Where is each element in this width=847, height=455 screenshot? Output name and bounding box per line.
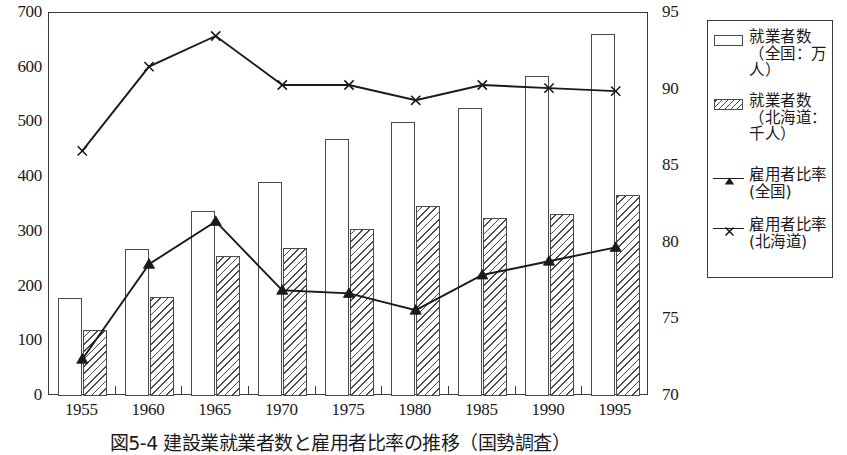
right-axis-tick-label: 75: [662, 309, 702, 326]
legend-item: 就業者数（北海道：千人）: [713, 93, 829, 143]
legend-item: 就業者数（全国：万人）: [713, 29, 829, 79]
right-axis-tick-label: 80: [662, 233, 702, 250]
left-axis-tick-label: 600: [0, 58, 42, 75]
hokkaido-employee-ratio-marker: [211, 31, 220, 40]
bar-national-workers: [325, 139, 349, 396]
bar-hokkaido-workers: [216, 256, 240, 396]
x-axis-tick-label: 1995: [580, 400, 650, 420]
legend-item: 雇用者比率(全国): [713, 167, 829, 200]
left-axis-tick-label: 100: [0, 331, 42, 348]
x-axis-tick-label: 1990: [513, 400, 583, 420]
figure-caption: 図5-4 建設業就業者数と雇用者比率の推移（国勢調査）: [0, 428, 680, 455]
x-axis-tick-mark: [448, 386, 449, 395]
bar-national-workers: [58, 298, 82, 396]
right-axis-tick-label: 70: [662, 386, 702, 403]
left-axis-tick-label: 500: [0, 112, 42, 129]
right-axis-tick-label: 90: [662, 80, 702, 97]
bar-national-workers: [258, 182, 282, 396]
hokkaido-employee-ratio-marker: [278, 80, 287, 89]
legend-item-label: 雇用者比率(全国): [749, 167, 829, 200]
bar-hokkaido-workers: [550, 214, 574, 396]
bar-national-workers: [391, 122, 415, 396]
x-axis-tick-label: 1975: [313, 400, 383, 420]
x-axis-tick-mark: [115, 386, 116, 395]
triangle-line-icon: [713, 170, 745, 187]
x-axis-tick-label: 1970: [246, 400, 316, 420]
bar-hokkaido-workers: [83, 330, 107, 396]
left-axis-tick-label: 400: [0, 167, 42, 184]
bar-national-workers: [525, 76, 549, 396]
bar-hokkaido-workers: [616, 195, 640, 396]
bar-national-workers: [591, 34, 615, 396]
bar-hokkaido-workers: [350, 229, 374, 396]
legend-item-label: 就業者数（北海道：千人）: [749, 93, 829, 143]
hokkaido-employee-ratio-marker: [411, 96, 420, 105]
hokkaido-employee-ratio-marker: [478, 80, 487, 89]
bar-national-workers: [458, 108, 482, 396]
hokkaido-employee-ratio-marker: [78, 146, 87, 155]
bar-national-workers: [191, 211, 215, 396]
bar-hokkaido-workers: [483, 218, 507, 396]
right-axis-tick-label: 85: [662, 156, 702, 173]
x-axis-tick-mark: [581, 386, 582, 395]
bar-hokkaido-workers: [416, 206, 440, 396]
left-axis-tick-label: 700: [0, 3, 42, 20]
left-axis-tick-label: 300: [0, 222, 42, 239]
x-axis-tick-label: 1980: [380, 400, 450, 420]
left-axis-tick-label: 0: [0, 386, 42, 403]
x-axis-tick-mark: [515, 386, 516, 395]
plot-area: [48, 12, 648, 395]
legend: 就業者数（全国：万人）就業者数（北海道：千人）雇用者比率(全国)雇用者比率 (北…: [707, 20, 833, 278]
bar-hokkaido-workers: [150, 297, 174, 396]
x-axis-tick-label: 1960: [113, 400, 183, 420]
cross-line-icon: [713, 220, 745, 237]
legend-item: 雇用者比率 (北海道): [713, 217, 829, 250]
x-axis-tick-label: 1985: [446, 400, 516, 420]
x-axis-tick-mark: [181, 386, 182, 395]
x-axis-tick-label: 1965: [180, 400, 250, 420]
x-axis-tick-mark: [248, 386, 249, 395]
hatched-bar-icon: [713, 96, 745, 113]
legend-item-label: 雇用者比率 (北海道): [749, 217, 829, 250]
hokkaido-employee-ratio-marker: [344, 80, 353, 89]
bar-hokkaido-workers: [283, 248, 307, 396]
left-axis-tick-label: 200: [0, 277, 42, 294]
legend-item-label: 就業者数（全国：万人）: [749, 29, 829, 79]
x-axis-tick-label: 1955: [46, 400, 116, 420]
x-axis-tick-mark: [381, 386, 382, 395]
plain-bar-icon: [713, 32, 745, 49]
x-axis-tick-mark: [315, 386, 316, 395]
hokkaido-employee-ratio-marker: [144, 62, 153, 71]
right-axis-tick-label: 95: [662, 3, 702, 20]
bar-national-workers: [125, 249, 149, 396]
